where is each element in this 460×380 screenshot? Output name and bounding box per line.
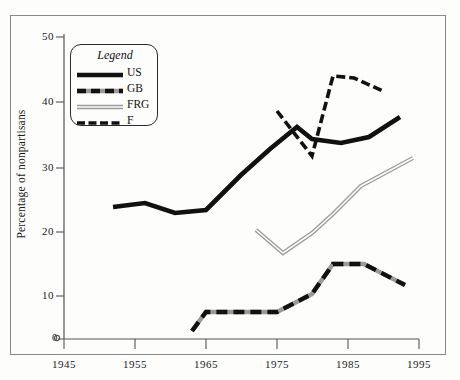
legend-label-frg: FRG [127, 98, 149, 110]
legend-label-gb: GB [127, 82, 143, 94]
plot-area [0, 0, 460, 380]
legend-row-f: F [77, 115, 157, 131]
legend-row-frg: FRG [77, 99, 157, 115]
legend-swatch-frg [77, 102, 123, 112]
legend-title: Legend [71, 48, 159, 63]
legend-swatch-f [77, 118, 123, 128]
series-line-f [277, 76, 385, 156]
origin-marker [54, 335, 59, 340]
series-line-frg [256, 158, 413, 253]
y-tick-marks [56, 37, 64, 296]
series-line-gb [192, 264, 405, 331]
legend-row-gb: GB [77, 83, 157, 99]
legend-row-us: US [77, 67, 157, 83]
legend-swatch-us [77, 70, 123, 80]
legend-swatch-gb [77, 86, 123, 96]
legend-label-f: F [127, 114, 133, 126]
chart-page: Percentage of nonpartisans 50 40 30 20 1… [0, 0, 460, 380]
x-tick-marks [64, 339, 419, 349]
series-line-us [113, 117, 400, 213]
legend: Legend US GB FRG F [70, 44, 158, 126]
legend-label-us: US [127, 66, 142, 78]
